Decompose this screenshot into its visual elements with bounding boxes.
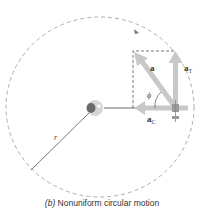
caption-prefix: (b)	[45, 198, 55, 208]
label-ac: aC	[147, 114, 156, 125]
figure-caption: (b) Nonuniform circular motion	[0, 198, 204, 208]
radius-line	[31, 112, 90, 170]
label-phi: ϕ	[147, 91, 151, 100]
pivot-icon	[87, 100, 104, 116]
direction-arrow-icon	[134, 29, 139, 34]
total-acceleration-vector	[134, 52, 175, 107]
centripetal-acceleration-vector	[134, 101, 188, 115]
nonuniform-circular-motion-diagram: a aT aC ϕ r	[0, 0, 204, 213]
label-aT: aT	[184, 63, 193, 74]
caption-text: Nonuniform circular motion	[58, 198, 160, 208]
label-a: a	[150, 63, 155, 73]
label-r: r	[54, 133, 58, 142]
